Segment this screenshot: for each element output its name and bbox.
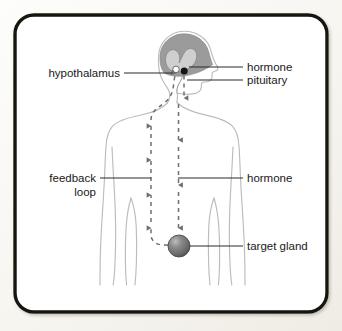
endocrine-feedback-diagram: hypothalamus hormone pituitary feedback …: [0, 0, 342, 331]
label-feedback-line1: feedback: [49, 172, 96, 184]
label-hypothalamus: hypothalamus: [48, 67, 120, 79]
label-hormone-mid: hormone: [247, 172, 292, 184]
figure-canvas: hypothalamus hormone pituitary feedback …: [0, 0, 342, 331]
label-pituitary: pituitary: [247, 74, 288, 86]
pituitary-marker: [181, 68, 188, 75]
label-hormone-top: hormone: [247, 61, 292, 73]
target-gland-marker: [168, 235, 190, 257]
hypothalamus-marker: [173, 66, 180, 73]
label-target-gland: target gland: [247, 240, 308, 252]
label-feedback-line2: loop: [74, 186, 96, 198]
